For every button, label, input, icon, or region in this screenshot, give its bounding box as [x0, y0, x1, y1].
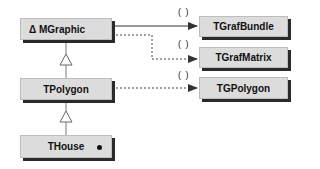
- class-label: TGPolygon: [217, 83, 270, 94]
- class-label: TGrafMatrix: [215, 52, 271, 63]
- class-tgpolygon[interactable]: TGPolygon: [199, 77, 288, 99]
- inheritance-triangle-icon: [60, 111, 72, 122]
- class-tgrafmatrix[interactable]: TGrafMatrix: [199, 47, 288, 68]
- class-tpolygon[interactable]: TPolygon: [20, 78, 112, 100]
- class-label: Δ MGraphic: [29, 24, 85, 35]
- class-label: TPolygon: [43, 84, 89, 95]
- class-label: TGrafBundle: [213, 21, 274, 32]
- relation-label: ( ): [178, 70, 190, 80]
- class-thouse[interactable]: THouse: [20, 135, 112, 158]
- class-tgrafbundle[interactable]: TGrafBundle: [199, 16, 288, 37]
- class-label: THouse: [48, 141, 85, 152]
- relation-label: ( ): [178, 39, 190, 49]
- class-mgraphic[interactable]: Δ MGraphic: [20, 18, 112, 40]
- relation-label: ( ): [178, 7, 190, 17]
- dot-icon: [97, 145, 102, 150]
- inheritance-triangle-icon: [60, 54, 72, 65]
